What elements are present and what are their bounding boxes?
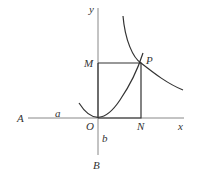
label-n: N [136, 120, 145, 132]
label-y: y [88, 3, 94, 15]
label-p: P [145, 54, 153, 66]
label-x: x [177, 120, 183, 132]
label-a-upper: A [16, 112, 24, 124]
label-m: M [83, 57, 94, 69]
label-b-upper: B [93, 159, 100, 171]
label-b-lower: b [102, 132, 108, 144]
diagram-canvas: y M P A a O N x b B [0, 0, 197, 180]
rectangle-ompn [98, 63, 141, 118]
label-o: O [86, 120, 94, 132]
label-a-lower: a [55, 107, 61, 119]
